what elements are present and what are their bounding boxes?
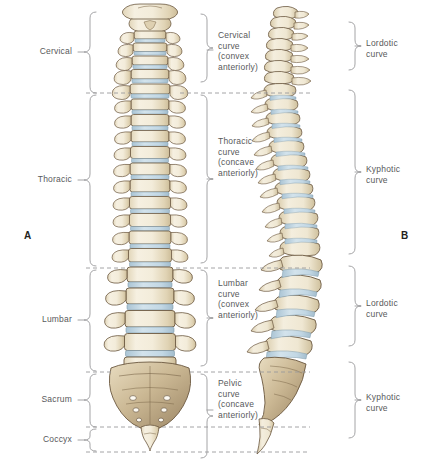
type-label-lumbar-lordotic-line2: curve bbox=[366, 309, 398, 320]
curve-label-lumbar-line3: (convex bbox=[218, 299, 258, 310]
sacrum bbox=[109, 362, 190, 430]
lateral-cervical bbox=[264, 6, 311, 85]
region-label-sacrum: Sacrum bbox=[4, 394, 72, 405]
curve-label-cervical-line4: anteriorly) bbox=[218, 62, 258, 73]
spine-illustration bbox=[0, 0, 429, 462]
type-label-cervical-lordotic-line2: curve bbox=[366, 49, 398, 60]
curve-label-pelvic-line4: anteriorly) bbox=[218, 410, 258, 421]
region-bracket-coccyx bbox=[84, 429, 96, 451]
curve-label-cervical-line2: curve bbox=[218, 41, 258, 52]
type-label-thoracic-kyphotic-line2: curve bbox=[366, 175, 400, 186]
region-label-coccyx: Coccyx bbox=[4, 434, 72, 445]
region-bracket-cervical bbox=[84, 12, 96, 93]
curve-label-lumbar-line4: anteriorly) bbox=[218, 310, 258, 321]
thoracic-vertebrae bbox=[112, 99, 188, 267]
lumbar-vertebrae bbox=[104, 267, 196, 377]
region-bracket-lumbar bbox=[84, 270, 96, 371]
region-label-cervical: Cervical bbox=[4, 46, 72, 57]
curve-label-cervical: Cervical curve (convex anteriorly) bbox=[218, 30, 258, 72]
curve-label-cervical-line1: Cervical bbox=[218, 30, 258, 41]
anterior-spine-group bbox=[104, 4, 196, 451]
type-label-thoracic-kyphotic: Kyphotic curve bbox=[366, 164, 400, 185]
type-label-lumbar-lordotic: Lordotic curve bbox=[366, 298, 398, 319]
curve-label-thoracic: Thoracic curve (concave anteriorly) bbox=[218, 136, 258, 178]
type-label-cervical-lordotic-line1: Lordotic bbox=[366, 38, 398, 49]
panel-label-b: B bbox=[401, 230, 409, 241]
curve-label-thoracic-line4: anteriorly) bbox=[218, 168, 258, 179]
curve-label-lumbar-line2: curve bbox=[218, 289, 258, 300]
lateral-thoracic bbox=[251, 83, 320, 257]
figure-canvas: Cervical Thoracic Lumbar Sacrum Coccyx C… bbox=[0, 0, 429, 462]
panel-label-a: A bbox=[24, 230, 32, 241]
curve-label-lumbar-line1: Lumbar bbox=[218, 278, 258, 289]
curve-bracket-pelvic bbox=[201, 374, 213, 458]
type-label-sacral-kyphotic-line1: Kyphotic bbox=[366, 392, 400, 403]
curve-label-lumbar: Lumbar curve (convex anteriorly) bbox=[218, 278, 258, 320]
region-bracket-thoracic bbox=[84, 95, 96, 266]
region-label-lumbar: Lumbar bbox=[4, 314, 72, 325]
type-label-sacral-kyphotic-line2: curve bbox=[366, 403, 400, 414]
curve-label-pelvic-line3: (concave bbox=[218, 399, 258, 410]
cervical-atlas bbox=[122, 4, 177, 33]
curve-label-pelvic: Pelvic curve (concave anteriorly) bbox=[218, 378, 258, 420]
curve-label-pelvic-line2: curve bbox=[218, 389, 258, 400]
region-bracket-sacrum bbox=[84, 374, 96, 427]
type-label-lumbar-lordotic-line1: Lordotic bbox=[366, 298, 398, 309]
curve-label-cervical-line3: (convex bbox=[218, 51, 258, 62]
lateral-lumbar bbox=[247, 255, 322, 360]
curve-label-thoracic-line3: (concave bbox=[218, 157, 258, 168]
curve-label-thoracic-line2: curve bbox=[218, 147, 258, 158]
type-label-sacral-kyphotic: Kyphotic curve bbox=[366, 392, 400, 413]
curve-bracket-cervical bbox=[201, 14, 213, 82]
cervical-vertebrae bbox=[112, 31, 188, 100]
coccyx bbox=[141, 425, 159, 451]
curve-label-pelvic-line1: Pelvic bbox=[218, 378, 258, 389]
type-label-cervical-lordotic: Lordotic curve bbox=[366, 38, 398, 59]
region-label-thoracic: Thoracic bbox=[4, 174, 72, 185]
type-label-thoracic-kyphotic-line1: Kyphotic bbox=[366, 164, 400, 175]
curve-label-thoracic-line1: Thoracic bbox=[218, 136, 258, 147]
